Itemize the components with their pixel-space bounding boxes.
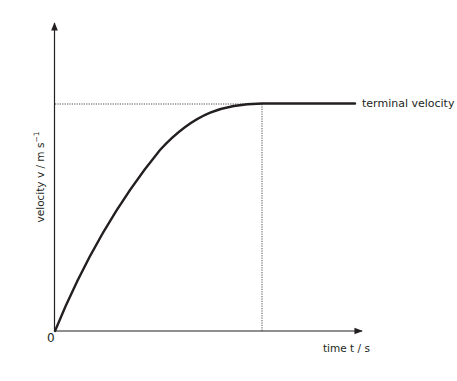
svg-text:velocity v / m s−1: velocity v / m s−1 xyxy=(32,131,46,222)
x-axis-label: time t / s xyxy=(323,342,370,354)
velocity-curve xyxy=(55,104,355,332)
y-axis-label-main: velocity v / m s xyxy=(34,143,46,223)
y-axis-label-superscript: −1 xyxy=(32,131,41,142)
y-axis-label: velocity v / m s−1 xyxy=(32,131,46,222)
terminal-velocity-label: terminal velocity xyxy=(362,97,455,110)
velocity-time-chart: 0 time t / s terminal velocity velocity … xyxy=(0,0,457,381)
origin-label: 0 xyxy=(47,331,55,345)
